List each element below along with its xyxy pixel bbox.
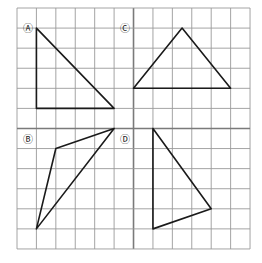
triangle-c-outline	[134, 28, 231, 88]
triangle-a-label: Ⓐ	[23, 23, 33, 34]
triangle-c-label: Ⓒ	[120, 23, 130, 34]
triangle-c: Ⓒ	[120, 23, 231, 88]
triangle-b-label: Ⓑ	[23, 134, 33, 145]
triangle-d-outline	[153, 128, 211, 228]
triangles-layer: ⒶⒸⒷⒹ	[23, 23, 231, 229]
triangle-a: Ⓐ	[23, 23, 114, 108]
grid-diagram: ⒶⒸⒷⒹ	[0, 0, 262, 263]
triangle-d-label: Ⓓ	[120, 134, 130, 145]
